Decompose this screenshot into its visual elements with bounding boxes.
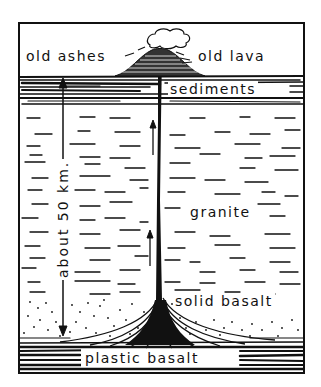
label-depth: about 50 km.	[56, 159, 70, 280]
label-solid-basalt: solid basalt	[173, 293, 275, 309]
label-sediments: sediments	[168, 81, 258, 97]
label-plastic-basalt: plastic basalt	[81, 349, 203, 367]
smoke-cloud-icon	[148, 29, 190, 49]
label-old-lava: old lava	[196, 48, 267, 64]
volcano-cross-section-diagram: old ashes old lava sediments granite sol…	[0, 0, 321, 387]
label-old-ashes: old ashes	[24, 48, 108, 64]
label-granite: granite	[188, 204, 253, 220]
volcanic-conduit	[156, 52, 162, 300]
magma-flow-arrows	[147, 120, 156, 266]
